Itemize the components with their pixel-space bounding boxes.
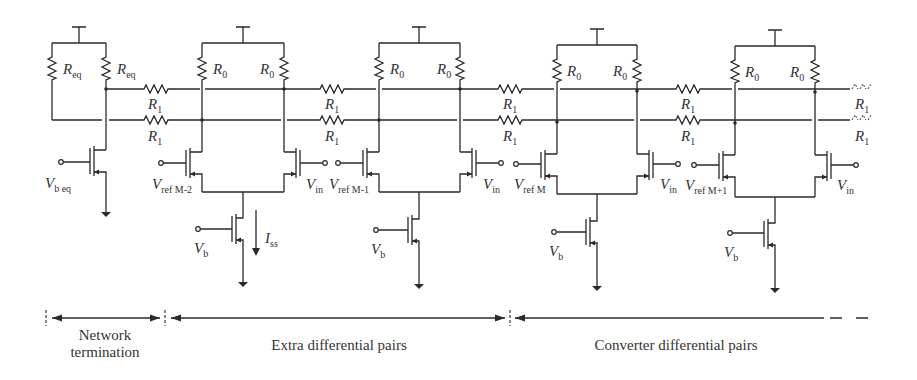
svg-text:R0: R0	[789, 64, 804, 83]
svg-text:Iss: Iss	[264, 230, 278, 249]
svg-text:R1: R1	[680, 128, 695, 147]
section-annotations: Network termination Extra differential p…	[46, 310, 868, 360]
svg-text:Vb eq: Vb eq	[45, 175, 71, 194]
svg-text:Vref M-2: Vref M-2	[152, 176, 192, 195]
svg-text:R1: R1	[854, 96, 869, 115]
svg-text:R0: R0	[744, 64, 759, 83]
svg-text:Vin: Vin	[306, 176, 323, 195]
svg-text:Vin: Vin	[660, 176, 677, 195]
section-label-network-termination-2: termination	[70, 344, 140, 360]
svg-text:R1: R1	[324, 128, 339, 147]
differential-pair-1: R0 R0 Vref M-2 Vin Vb Iss	[152, 27, 327, 287]
r1-labels: R1 R1 R1 R1 R1 R1 R1 R1 R1 R1	[147, 96, 869, 147]
svg-text:Req: Req	[116, 61, 136, 80]
svg-text:Req: Req	[62, 61, 82, 80]
differential-pair-2: R0 R0 Vref M-1 Vin Vb	[329, 27, 503, 289]
svg-text:R0: R0	[389, 61, 404, 80]
svg-text:R0: R0	[566, 63, 581, 82]
section-label-network-termination: Network	[79, 327, 132, 343]
svg-text:R1: R1	[502, 96, 517, 115]
svg-text:R1: R1	[502, 128, 517, 147]
interpolation-network: R1 R1 R1 R1 R1 R1 R1 R1 R1 R1	[52, 84, 871, 147]
section-label-extra-pairs: Extra differential pairs	[271, 337, 407, 353]
svg-text:Vin: Vin	[483, 176, 500, 195]
svg-text:R1: R1	[680, 96, 695, 115]
svg-text:R0: R0	[259, 61, 274, 80]
svg-text:Vb: Vb	[724, 244, 738, 263]
svg-text:Vb: Vb	[549, 243, 563, 262]
differential-pair-4: R0 R0 Vref M+1 Vin Vb	[685, 30, 858, 293]
svg-text:Vref M+1: Vref M+1	[685, 177, 727, 196]
svg-text:R1: R1	[147, 96, 162, 115]
svg-text:R1: R1	[147, 128, 162, 147]
svg-text:Vin: Vin	[837, 177, 854, 196]
svg-text:Vb: Vb	[371, 241, 385, 260]
svg-text:Vref M-1: Vref M-1	[329, 176, 369, 195]
svg-text:R1: R1	[324, 96, 339, 115]
svg-text:R0: R0	[436, 61, 451, 80]
svg-text:R1: R1	[854, 128, 869, 147]
section-label-converter-pairs: Converter differential pairs	[595, 337, 758, 353]
svg-text:Vref M: Vref M	[514, 176, 546, 195]
svg-text:Vb: Vb	[194, 240, 208, 259]
svg-text:R0: R0	[612, 63, 627, 82]
network-termination-stage: Req Req Vb eq	[45, 27, 136, 217]
svg-text:R0: R0	[212, 61, 227, 80]
differential-pair-3: R0 R0 Vref M Vin Vb	[514, 29, 681, 291]
circuit-schematic: Req Req Vb eq R1 R1 R1 R1 R1	[0, 0, 917, 380]
